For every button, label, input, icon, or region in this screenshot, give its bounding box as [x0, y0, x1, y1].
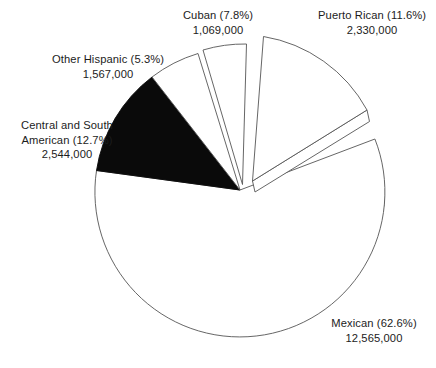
- label-mexican-line2: 12,565,000: [322, 331, 426, 346]
- label-puerto-rican-line1: Puerto Rican (11.6%): [318, 8, 426, 23]
- pie-chart-figure: Cuban (7.8%) 1,069,000 Puerto Rican (11.…: [0, 0, 436, 368]
- label-mexican-line1: Mexican (62.6%): [322, 316, 426, 331]
- label-cuban-line1: Cuban (7.8%): [180, 8, 256, 23]
- label-puerto-rican-line2: 2,330,000: [318, 23, 426, 38]
- label-mexican: Mexican (62.6%) 12,565,000: [322, 316, 426, 345]
- label-central-and-south-american-line3: 2,544,000: [8, 147, 126, 162]
- label-other-hispanic: Other Hispanic (5.3%) 1,567,000: [52, 52, 164, 81]
- label-puerto-rican: Puerto Rican (11.6%) 2,330,000: [318, 8, 426, 37]
- label-cuban-line2: 1,069,000: [180, 23, 256, 38]
- label-cuban: Cuban (7.8%) 1,069,000: [180, 8, 256, 37]
- label-other-hispanic-line1: Other Hispanic (5.3%): [52, 52, 164, 67]
- label-central-and-south-american: Central and South American (12.7%) 2,544…: [8, 118, 126, 162]
- label-central-and-south-american-line2: American (12.7%): [8, 133, 126, 148]
- label-other-hispanic-line2: 1,567,000: [52, 67, 164, 82]
- label-central-and-south-american-line1: Central and South: [8, 118, 126, 133]
